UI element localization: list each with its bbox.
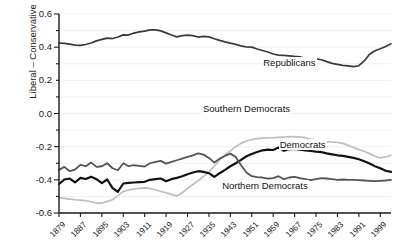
line-chart-plot <box>0 0 398 250</box>
y-tick-label: 0.0 <box>18 108 52 119</box>
y-tick-label: -0.6 <box>18 207 52 218</box>
series-label-southern-democrats: Southern Democrats <box>202 103 291 114</box>
y-tick-label: 0.4 <box>18 41 52 52</box>
y-tick-label: 0.2 <box>18 74 52 85</box>
series-lines <box>59 30 391 203</box>
series-label-northern-democrats: Northern Democrats <box>221 180 309 191</box>
series-line-northern-democrats <box>59 153 391 181</box>
y-tick-label: -0.4 <box>18 174 52 185</box>
y-tick-label: 0.6 <box>18 8 52 19</box>
series-label-democrats: Democrats <box>279 139 327 150</box>
y-tick-label: -0.2 <box>18 141 52 152</box>
chart-figure: Liberal – Conservative 0.60.40.20.0-0.2-… <box>0 0 398 250</box>
series-label-republicans: Republicans <box>262 57 316 68</box>
series-line-republicans <box>59 30 391 67</box>
tick-marks <box>54 14 380 217</box>
